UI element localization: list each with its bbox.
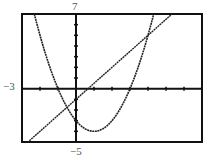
- xmin-label: −3: [3, 80, 15, 92]
- ymax-label: 7: [72, 0, 78, 12]
- parabola-curve: [22, 0, 202, 131]
- ymin-label: −5: [70, 145, 82, 157]
- line-curve: [27, 0, 202, 143]
- graph-window: [0, 0, 212, 160]
